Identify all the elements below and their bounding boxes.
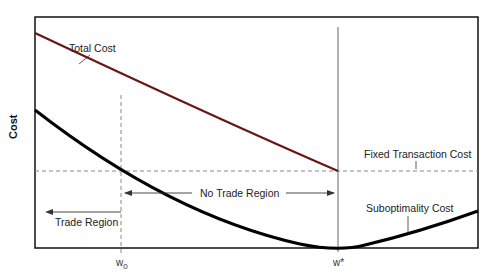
cost-chart: Total Cost Fixed Transaction Cost Subopt… bbox=[0, 0, 497, 276]
y-axis-label: Cost bbox=[7, 114, 19, 139]
arrow-left-icon bbox=[45, 209, 53, 215]
total-cost-label: Total Cost bbox=[69, 42, 116, 54]
subopt-cost-label: Suboptimality Cost bbox=[366, 202, 454, 214]
no-trade-label: No Trade Region bbox=[200, 187, 280, 199]
arrow-left-icon bbox=[124, 190, 132, 196]
wstar-tick: w* bbox=[332, 257, 344, 268]
trade-label: Trade Region bbox=[55, 216, 118, 228]
arrow-right-icon bbox=[327, 190, 335, 196]
w0-tick: w0 bbox=[115, 257, 128, 271]
fixed-cost-label: Fixed Transaction Cost bbox=[364, 148, 471, 160]
